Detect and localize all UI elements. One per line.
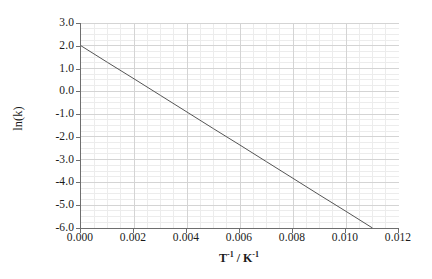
x-axis-tick-mark	[239, 229, 240, 233]
y-axis-tick-label: 2.0	[12, 40, 74, 52]
x-axis-title: T-1 / K-1	[80, 252, 398, 265]
y-axis-title: ln(k)	[12, 79, 25, 159]
y-axis-tick-mark	[76, 205, 80, 206]
y-axis-tick-label: -5.0	[12, 199, 74, 211]
x-axis-tick-label: 0.012	[358, 232, 432, 244]
x-axis-tick-mark	[398, 229, 399, 233]
y-axis-tick-mark	[76, 23, 80, 24]
y-axis-tick-label: 1.0	[12, 63, 74, 75]
y-axis-tick-mark	[76, 160, 80, 161]
y-axis-tick-mark	[76, 69, 80, 70]
y-axis-tick-mark	[76, 182, 80, 183]
x-axis-title-exponent: -1	[227, 250, 234, 259]
x-axis-tick-mark	[345, 229, 346, 233]
x-axis-tick-mark	[292, 229, 293, 233]
y-axis-tick-mark	[76, 114, 80, 115]
y-axis-tick-label: 3.0	[12, 17, 74, 29]
y-axis-tick-mark	[76, 137, 80, 138]
grid-and-data-svg	[81, 23, 399, 228]
plot-area	[80, 23, 399, 229]
x-axis-title-base: T	[219, 251, 227, 265]
x-axis-tick-mark	[186, 229, 187, 233]
y-axis-tick-label: -4.0	[12, 176, 74, 188]
y-axis-tick-mark	[76, 91, 80, 92]
x-axis-title-exponent-2: -1	[252, 250, 259, 259]
y-axis-tick-mark	[76, 46, 80, 47]
arrhenius-plot-figure: 3.02.01.00.0-1.0-2.0-3.0-4.0-5.0-6.0 0.0…	[0, 0, 432, 279]
x-axis-tick-mark	[80, 229, 81, 233]
x-axis-title-separator: / K	[234, 251, 253, 265]
x-axis-tick-mark	[133, 229, 134, 233]
